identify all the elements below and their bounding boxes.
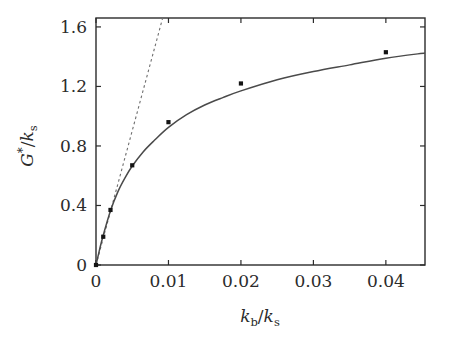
plot-frame xyxy=(96,18,425,265)
x-title-k-b: k xyxy=(240,306,250,326)
x-tick-label-4: 0.04 xyxy=(367,271,405,291)
x-tick-label-3: 0.03 xyxy=(294,271,332,291)
y-axis-ticks-left xyxy=(96,27,101,265)
y-axis-title: G*/ks xyxy=(16,125,40,167)
data-point xyxy=(108,208,112,212)
y-tick-label-2: 0.8 xyxy=(60,136,87,156)
y-tick-label-0: 0 xyxy=(76,255,87,275)
data-point xyxy=(166,120,170,124)
y-title-k: k xyxy=(17,131,37,141)
y-tick-label-1: 0.4 xyxy=(60,195,87,215)
fitted-curve xyxy=(96,53,425,265)
x-axis-title: kb/ks xyxy=(240,306,280,329)
x-axis-ticks-bottom xyxy=(96,260,386,265)
chart-svg: 00.010.020.030.04 00.40.81.21.6 kb/ks G*… xyxy=(0,0,449,339)
data-point xyxy=(239,81,243,85)
x-tick-label-0: 0 xyxy=(91,271,102,291)
data-point xyxy=(101,235,105,239)
y-tick-labels: 00.40.81.21.6 xyxy=(60,17,87,275)
y-tick-label-3: 1.2 xyxy=(60,76,87,96)
x-tick-label-2: 0.02 xyxy=(222,271,260,291)
x-title-sub-s: s xyxy=(274,315,280,329)
x-tick-labels: 00.010.020.030.04 xyxy=(91,271,405,291)
x-title-k-s: k xyxy=(264,306,274,326)
y-title-sub-s: s xyxy=(26,125,40,131)
data-point xyxy=(94,263,98,267)
data-point xyxy=(130,163,134,167)
figure-container: 00.010.020.030.04 00.40.81.21.6 kb/ks G*… xyxy=(0,0,449,339)
x-tick-label-1: 0.01 xyxy=(150,271,188,291)
data-point xyxy=(384,50,388,54)
y-axis-ticks-right xyxy=(420,27,425,265)
y-tick-label-4: 1.6 xyxy=(60,17,87,37)
x-axis-ticks-top xyxy=(96,18,386,23)
y-title-G: G xyxy=(17,153,37,167)
x-title-sub-b: b xyxy=(250,315,257,329)
